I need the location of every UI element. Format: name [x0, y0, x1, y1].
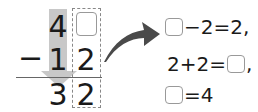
difference-ones-digit: 2	[75, 80, 97, 110]
equation-3-blank[interactable]	[165, 86, 183, 104]
subtrahend-tens-digit: 1	[47, 45, 69, 75]
equation-1-blank[interactable]	[165, 18, 183, 36]
curved-arrow-icon	[100, 14, 164, 64]
minus-sign: −	[18, 43, 36, 73]
equation-3: =4	[164, 83, 213, 107]
equation-2-blank[interactable]	[227, 55, 245, 73]
minuend-ones-blank[interactable]	[76, 12, 97, 36]
equation-2-text: 2+2=	[167, 52, 226, 76]
equation-2: 2+2= ,	[167, 52, 252, 76]
subtrahend-ones-digit: 2	[75, 45, 97, 75]
minuend-tens-digit: 4	[47, 12, 69, 42]
equation-2-comma: ,	[246, 52, 252, 76]
equation-1-text: −2=2,	[184, 15, 249, 39]
equation-3-text: =4	[184, 83, 213, 107]
equation-1: −2=2,	[164, 15, 249, 39]
difference-tens-digit: 3	[47, 80, 69, 110]
